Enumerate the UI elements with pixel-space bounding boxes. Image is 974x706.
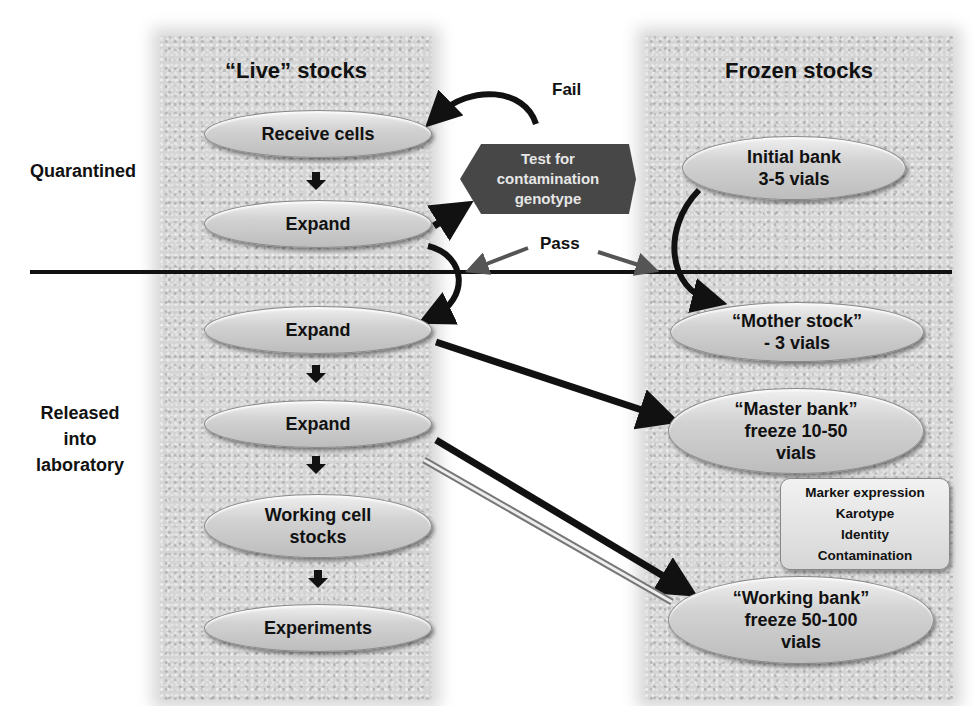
initial-bank-node: Initial bank 3-5 vials [682, 136, 906, 200]
master-bank-node: “Master bank” freeze 10-50 vials [668, 388, 924, 474]
initial-to-mother-arrow [674, 190, 710, 300]
expand-released-node-2: Expand [204, 400, 432, 448]
working-cell-stocks-node: Working cell stocks [204, 494, 432, 558]
release-curve-arrow [428, 246, 459, 316]
pass-label: Pass [540, 234, 580, 254]
qc-item: Identity [841, 524, 889, 545]
qc-item: Karotype [836, 503, 895, 524]
mother-stock-node: “Mother stock” - 3 vials [670, 302, 924, 362]
qc-item: Marker expression [805, 482, 924, 503]
pass-arrow-right [598, 252, 648, 268]
working-bank-node: “Working bank” freeze 50-100 vials [668, 576, 934, 664]
pass-arrow-left [476, 248, 528, 268]
to-test-arrow [434, 212, 456, 226]
expand-released-node-1: Expand [204, 306, 432, 354]
fail-label: Fail [552, 80, 581, 100]
experiments-node: Experiments [204, 604, 432, 652]
expand-quarantine-node: Expand [204, 200, 432, 248]
quality-control-box: Marker expression Karotype Identity Cont… [780, 478, 950, 570]
test-for-contamination-box: Test for contamination genotype [460, 144, 636, 214]
fail-arrow [438, 94, 536, 124]
expand-to-master-arrow [436, 342, 660, 416]
expand-to-working-arrow [436, 440, 680, 586]
receive-cells-node: Receive cells [204, 110, 432, 158]
qc-item: Contamination [818, 545, 913, 566]
